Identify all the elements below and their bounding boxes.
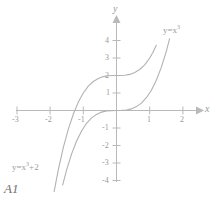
x-axis-label: x bbox=[205, 104, 209, 114]
y-tick-label-2: 2 bbox=[105, 72, 109, 80]
y-tick-label--3: -3 bbox=[102, 159, 109, 167]
curve-label-cubic-exponent: 3 bbox=[177, 24, 180, 30]
x-axis-arrow-icon bbox=[196, 107, 204, 115]
curve-label-shifted-base: y=x bbox=[12, 162, 26, 172]
curve-label-cubic-base: y=x bbox=[163, 25, 177, 35]
y-tick-label--2: -2 bbox=[102, 142, 109, 150]
x-tick-label--2: -2 bbox=[45, 116, 52, 124]
x-tick-label--1: -1 bbox=[78, 116, 85, 124]
figure-caption: A1 bbox=[4, 182, 18, 195]
curve-label-shifted-tail: +2 bbox=[29, 162, 39, 172]
curve-label-y-equals-x-cubed: y=x3 bbox=[163, 24, 180, 35]
y-axis-arrow-icon bbox=[113, 15, 121, 23]
curve-y-equals-x-cubed-plus-2 bbox=[54, 45, 156, 192]
y-tick-label-1: 1 bbox=[106, 89, 110, 97]
y-tick-label--4: -4 bbox=[102, 177, 109, 185]
y-axis-label: y bbox=[113, 4, 117, 14]
x-tick-label-2: 2 bbox=[180, 116, 184, 124]
curve-label-y-equals-x-cubed-plus-2: y=x3+2 bbox=[12, 161, 39, 172]
x-tick-label--3: -3 bbox=[12, 116, 19, 124]
y-tick-label--1: -1 bbox=[102, 124, 109, 132]
y-tick-label-4: 4 bbox=[105, 37, 109, 45]
y-tick-label-3: 3 bbox=[105, 54, 109, 62]
x-tick-label-1: 1 bbox=[147, 116, 151, 124]
cubic-functions-figure: -3 -2 -1 1 2 4 3 2 1 -1 -2 -3 -4 y x y=x… bbox=[0, 0, 217, 201]
